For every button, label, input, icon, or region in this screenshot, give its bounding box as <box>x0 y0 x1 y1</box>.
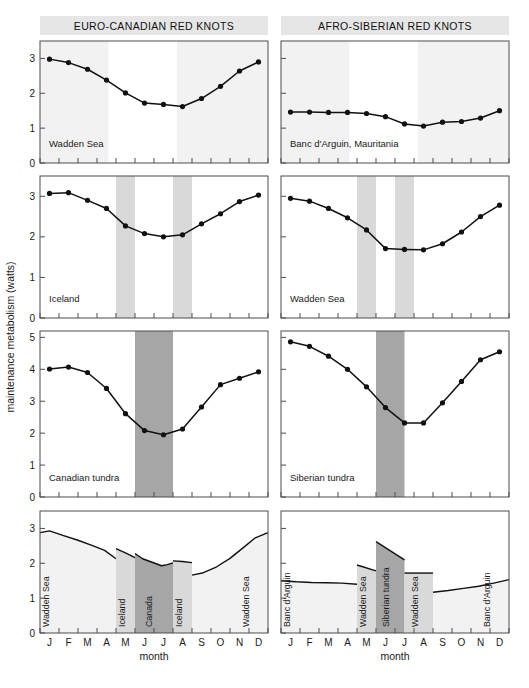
panel-afro-siberian-annual: Banc d'ArguinWadden SeaSiberian tundraWa… <box>281 511 509 662</box>
data-point <box>218 382 223 387</box>
data-point <box>85 370 90 375</box>
data-point <box>345 367 350 372</box>
data-point <box>123 223 128 228</box>
data-point <box>307 110 312 115</box>
data-point <box>288 196 293 201</box>
data-point <box>180 104 185 109</box>
y-tick-label: 2 <box>29 231 35 242</box>
data-point <box>199 221 204 226</box>
x-tick-label: J <box>47 637 52 648</box>
region-label: Iceland <box>174 599 184 627</box>
x-tick-label: A <box>103 637 110 648</box>
data-point <box>47 366 52 371</box>
data-point <box>364 111 369 116</box>
data-point <box>345 110 350 115</box>
data-point <box>421 420 426 425</box>
shaded-band <box>116 176 135 318</box>
y-tick-label: 1 <box>29 123 35 134</box>
data-point <box>478 214 483 219</box>
data-point <box>459 119 464 124</box>
data-point <box>256 369 261 374</box>
x-tick-label: J <box>288 637 293 648</box>
panel-euro-canadian-annual: 0123Wadden SeaIcelandCanadaIcelandWadden… <box>29 511 268 662</box>
y-tick-label: 3 <box>29 191 35 202</box>
region-label: Banc d'Arguin <box>482 572 492 627</box>
data-point <box>326 110 331 115</box>
data-point <box>478 115 483 120</box>
shaded-band <box>135 331 173 497</box>
data-point <box>237 376 242 381</box>
shaded-band <box>177 41 268 163</box>
panel-wadden-sea-euro: 0123Wadden Sea <box>29 41 268 169</box>
data-line <box>50 193 259 237</box>
data-point <box>123 411 128 416</box>
data-point <box>123 90 128 95</box>
data-point <box>161 432 166 437</box>
panel-title: Wadden Sea <box>49 138 104 149</box>
x-tick-label: A <box>344 637 351 648</box>
x-tick-label: J <box>383 637 388 648</box>
y-tick-label: 3 <box>29 396 35 407</box>
data-point <box>104 77 109 82</box>
column-header-afro-siberian: AFRO-SIBERIAN RED KNOTS <box>281 16 509 35</box>
region-label: Banc d'Arguin <box>282 572 292 627</box>
data-point <box>364 227 369 232</box>
data-point <box>383 246 388 251</box>
region-label: Canada <box>144 596 154 627</box>
data-point <box>326 206 331 211</box>
data-point <box>326 354 331 359</box>
x-axis-title: month <box>139 650 168 662</box>
region-label: Iceland <box>117 599 127 627</box>
data-point <box>142 231 147 236</box>
x-tick-label: A <box>420 637 427 648</box>
x-tick-label: M <box>362 637 370 648</box>
y-tick-label: 0 <box>29 158 35 169</box>
data-point <box>218 211 223 216</box>
x-tick-label: D <box>496 637 503 648</box>
data-point <box>497 108 502 113</box>
data-point <box>478 357 483 362</box>
y-tick-label: 0 <box>29 313 35 324</box>
y-tick-label: 2 <box>29 428 35 439</box>
panel-iceland: 0123Iceland <box>29 176 268 324</box>
y-tick-label: 0 <box>29 628 35 639</box>
data-point <box>180 426 185 431</box>
data-point <box>459 379 464 384</box>
panel-title: Banc d'Arguin, Mauritania <box>290 138 399 149</box>
y-tick-label: 3 <box>29 53 35 64</box>
plot-canvas: 0123Wadden SeaBanc d'Arguin, Mauritania0… <box>0 0 529 688</box>
figure-root: EURO-CANADIAN RED KNOTS AFRO-SIBERIAN RE… <box>0 0 529 688</box>
data-point <box>66 364 71 369</box>
panel-banc-darguin: Banc d'Arguin, Mauritania <box>281 41 509 163</box>
data-point <box>440 241 445 246</box>
data-point <box>142 100 147 105</box>
shaded-band <box>418 41 509 163</box>
region-label: Wadden Sea <box>241 576 251 627</box>
shaded-band <box>173 176 192 318</box>
x-tick-label: S <box>198 637 205 648</box>
data-point <box>497 203 502 208</box>
y-tick-label: 5 <box>29 332 35 343</box>
data-point <box>497 349 502 354</box>
x-tick-label: F <box>306 637 312 648</box>
y-tick-label: 0 <box>29 492 35 503</box>
x-tick-label: A <box>179 637 186 648</box>
x-tick-label: D <box>255 637 262 648</box>
area-segment <box>40 531 116 633</box>
data-point <box>161 234 166 239</box>
data-point <box>47 191 52 196</box>
x-tick-label: N <box>236 637 243 648</box>
panel-title: Canadian tundra <box>49 472 120 483</box>
data-point <box>199 96 204 101</box>
data-point <box>104 206 109 211</box>
y-tick-label: 4 <box>29 364 35 375</box>
panel-title: Siberian tundra <box>290 472 355 483</box>
data-point <box>383 405 388 410</box>
data-point <box>237 68 242 73</box>
data-point <box>421 123 426 128</box>
x-axis-title: month <box>380 650 409 662</box>
x-tick-label: M <box>121 637 129 648</box>
data-point <box>307 344 312 349</box>
data-point <box>402 121 407 126</box>
data-point <box>104 386 109 391</box>
